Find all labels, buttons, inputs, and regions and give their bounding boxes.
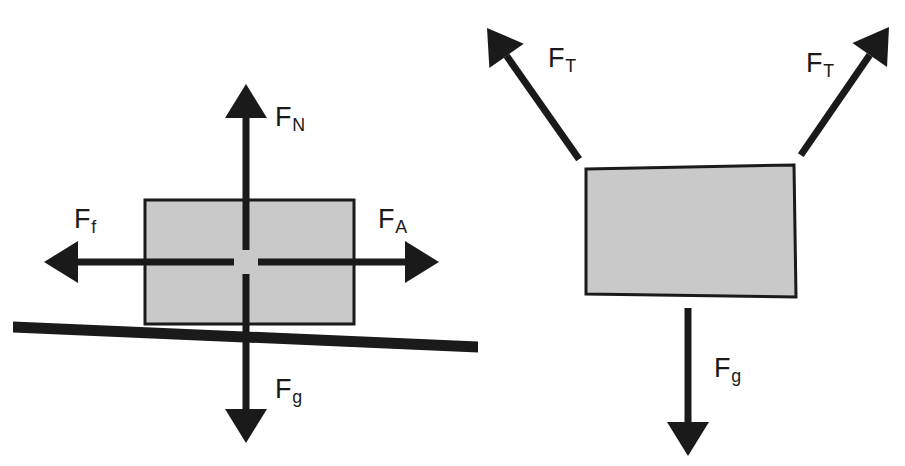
label-friction-force: Ff bbox=[74, 206, 96, 233]
normal-force-arrowhead bbox=[225, 84, 267, 118]
label-base: F bbox=[275, 102, 292, 132]
label-subscript: f bbox=[91, 217, 96, 237]
diagram-hanging-block bbox=[487, 27, 889, 456]
tension-left-arrowhead bbox=[487, 28, 524, 68]
label-gravity-force-right: Fg bbox=[714, 355, 741, 382]
gravity-force-arrowhead bbox=[225, 409, 267, 443]
label-gravity-force-left: Fg bbox=[275, 376, 302, 403]
label-base: F bbox=[378, 204, 395, 234]
label-normal-force: FN bbox=[275, 104, 305, 131]
friction-force-arrowhead bbox=[44, 241, 78, 283]
label-base: F bbox=[548, 43, 565, 73]
tension-right-arrowhead bbox=[852, 27, 889, 67]
block-quad bbox=[586, 165, 796, 297]
tension-force-right-arrow bbox=[801, 27, 889, 155]
label-subscript: A bbox=[395, 217, 407, 237]
label-subscript: N bbox=[292, 115, 305, 135]
label-subscript: g bbox=[731, 366, 741, 386]
label-base: F bbox=[275, 374, 292, 404]
label-base: F bbox=[714, 353, 731, 383]
applied-force-arrowhead bbox=[405, 241, 439, 283]
diagram-block-on-surface bbox=[13, 84, 478, 443]
label-tension-force-left: FT bbox=[548, 45, 576, 72]
label-base: F bbox=[806, 48, 823, 78]
label-applied-force: FA bbox=[378, 206, 407, 233]
label-tension-force-right: FT bbox=[806, 50, 834, 77]
label-subscript: g bbox=[292, 387, 302, 407]
label-subscript: T bbox=[823, 61, 834, 81]
free-body-diagram-svg bbox=[0, 0, 905, 466]
gravity-force-arrowhead bbox=[667, 422, 709, 456]
gravity-force-arrow-right bbox=[667, 308, 709, 456]
figure-canvas: FN Ff FA Fg FT FT Fg bbox=[0, 0, 905, 466]
label-subscript: T bbox=[565, 56, 576, 76]
label-base: F bbox=[74, 204, 91, 234]
